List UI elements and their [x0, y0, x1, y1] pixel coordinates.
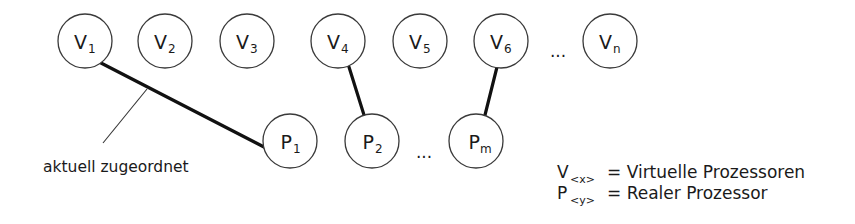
- node-v5: V 5: [393, 14, 447, 68]
- node-v2-sub: 2: [168, 42, 176, 56]
- legend: V <x> = Virtuelle Prozessoren P <y> = Re…: [557, 162, 805, 207]
- node-v3-sub: 3: [250, 42, 258, 56]
- node-p2-letter: P: [363, 131, 374, 153]
- node-v1-sub: 1: [88, 42, 96, 56]
- node-p2-sub: 2: [375, 142, 383, 156]
- node-v4-letter: V: [327, 31, 340, 53]
- node-vn: V n: [583, 14, 637, 68]
- legend-virtual-text: = Virtuelle Prozessoren: [607, 162, 805, 182]
- node-v3: V 3: [220, 14, 274, 68]
- legend-virtual-sub: <x>: [570, 173, 595, 186]
- node-pm-letter: P: [469, 131, 480, 153]
- processor-assignment-diagram: V 1 V 2 V 3 V 4 V 5 V 6 ...: [0, 0, 855, 224]
- node-v3-letter: V: [236, 31, 249, 53]
- ellipsis-real: ...: [416, 142, 432, 162]
- legend-real-symbol: P: [557, 183, 567, 203]
- node-p1-letter: P: [281, 131, 292, 153]
- ellipsis-virtual: ...: [550, 41, 566, 61]
- node-vn-sub: n: [613, 42, 621, 56]
- node-v4-sub: 4: [341, 42, 349, 56]
- node-v1-letter: V: [74, 31, 87, 53]
- legend-virtual-symbol: V: [557, 162, 569, 182]
- legend-row-real: P <y> = Realer Prozessor: [557, 183, 768, 207]
- node-v5-letter: V: [409, 31, 422, 53]
- annotation-pointer-line: [103, 89, 147, 143]
- node-p1-sub: 1: [293, 142, 301, 156]
- node-v4: V 4: [311, 14, 365, 68]
- node-p1: P 1: [263, 114, 317, 168]
- node-v6-sub: 6: [504, 42, 512, 56]
- node-v2: V 2: [138, 14, 192, 68]
- legend-real-text: = Realer Prozessor: [607, 183, 768, 203]
- node-v6: V 6: [474, 14, 528, 68]
- node-p2: P 2: [345, 114, 399, 168]
- edge-v6-pm: [485, 67, 497, 115]
- node-pm: P m: [449, 114, 503, 168]
- node-v5-sub: 5: [423, 42, 431, 56]
- edge-v4-p2: [349, 67, 364, 115]
- node-v6-letter: V: [490, 31, 503, 53]
- annotation-label: aktuell zugeordnet: [43, 158, 189, 176]
- node-v1: V 1: [58, 14, 112, 68]
- edge-v1-p1: [101, 63, 264, 147]
- node-vn-letter: V: [599, 31, 612, 53]
- node-pm-sub: m: [480, 142, 492, 156]
- legend-real-sub: <y>: [570, 194, 595, 207]
- node-v2-letter: V: [154, 31, 167, 53]
